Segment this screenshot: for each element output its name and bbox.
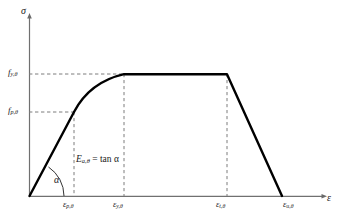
x-tick-label-eps-p: εp,θ (63, 200, 74, 210)
y-tick-label-fp: fp,θ (8, 106, 18, 115)
x-tick-label-eps-t: εt,θ (216, 200, 225, 210)
y-tick-fy-sub: y,θ (11, 71, 18, 77)
x-tick-eps-u-sub: u,θ (286, 203, 293, 209)
y-tick-label-fy: fy,θ (8, 68, 17, 77)
modulus-expression: = tan α (90, 154, 119, 164)
stress-strain-figure: σ ε fy,θ fp,θ εp,θ εy,θ εt,θ εu,θ Ea,θ =… (0, 0, 340, 219)
modulus-annotation: Ea,θ = tan α (76, 155, 119, 165)
y-axis-label: σ (21, 6, 26, 16)
x-axis-label: ε (327, 193, 331, 203)
x-tick-label-eps-y: εy,θ (113, 200, 123, 210)
x-tick-label-eps-u: εu,θ (283, 200, 294, 210)
stress-strain-chart-canvas (0, 0, 340, 219)
vertical-guide-lines (74, 74, 227, 196)
stress-strain-curve (30, 74, 283, 196)
x-tick-eps-y-sub: y,θ (116, 203, 123, 209)
axes-group (27, 13, 327, 199)
modulus-subscript: a,θ (82, 157, 90, 164)
angle-label: α (54, 175, 59, 185)
x-tick-eps-p-sub: p,θ (66, 203, 73, 209)
y-axis-arrowhead (27, 13, 32, 19)
x-tick-eps-t-sub: t,θ (219, 203, 225, 209)
y-tick-fp-sub: p,θ (11, 109, 19, 115)
